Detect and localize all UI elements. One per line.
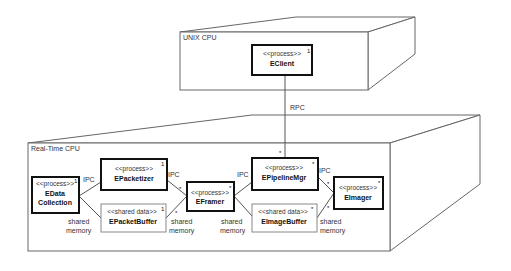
eimager-box xyxy=(334,177,383,209)
eframer-stereotype: <<process>> xyxy=(191,189,229,197)
ipc-label: IPC xyxy=(319,167,331,174)
epacketizer-stereotype: <<process>> xyxy=(115,165,153,173)
epipelinemgr-stereotype: <<process>> xyxy=(265,164,303,172)
edata-name-line1: EData xyxy=(45,190,65,197)
shared-memory-label-line2: memory xyxy=(169,227,195,235)
component-eimagebuffer[interactable]: <<shared data>> EImageBuffer * xyxy=(252,204,317,232)
component-epacketbuffer[interactable]: <<shared data>> EPacketBuffer 1 xyxy=(101,204,166,232)
shared-memory-label-line2: memory xyxy=(320,227,346,235)
eclient-stereotype: <<process>> xyxy=(263,50,301,58)
eframer-box xyxy=(187,182,234,211)
eimagebuffer-name: EImageBuffer xyxy=(261,218,307,226)
shared-memory-label-line2: memory xyxy=(220,227,246,235)
realtime-cpu-label: Real-Time CPU xyxy=(31,145,80,152)
component-eclient[interactable]: <<process>> EClient 1 xyxy=(252,45,312,75)
unix-cpu-label: UNIX CPU xyxy=(183,34,216,41)
epacketbuffer-stereotype: <<shared data>> xyxy=(107,208,157,215)
eimager-stereotype: <<process>> xyxy=(339,184,377,192)
eclient-name: EClient xyxy=(270,60,295,67)
rpc-label: RPC xyxy=(290,104,305,111)
eimager-name: EImager xyxy=(344,194,372,202)
edata-name-line2: Collection xyxy=(38,199,72,206)
shared-memory-label-line1: shared xyxy=(221,218,243,225)
component-epacketizer[interactable]: <<process>> EPacketizer 1 xyxy=(101,159,167,190)
component-eframer[interactable]: <<process>> EFramer * xyxy=(187,182,234,211)
shared-memory-label-line1: shared xyxy=(68,218,90,225)
edata-stereotype: <<process>> xyxy=(36,180,74,188)
deployment-diagram: UNIX CPU Real-Time CPU RPC * IPC shared … xyxy=(0,0,511,271)
component-edata-collection[interactable]: <<process>> EData Collection 1 xyxy=(32,177,79,213)
eframer-name: EFramer xyxy=(196,198,225,205)
eimagebuffer-stereotype: <<shared data>> xyxy=(258,208,308,215)
epipelinemgr-name: EPipelineMgr xyxy=(262,174,307,182)
component-epipelinemgr[interactable]: <<process>> EPipelineMgr * xyxy=(252,158,318,190)
ipc-label: IPC xyxy=(237,171,249,178)
component-eimager[interactable]: <<process>> EImager * xyxy=(334,177,383,209)
shared-memory-label-line1: shared xyxy=(171,218,193,225)
shared-memory-label-line1: shared xyxy=(320,218,342,225)
epacketizer-name: EPacketizer xyxy=(114,175,154,182)
ipc-label: IPC xyxy=(83,176,95,183)
epacketbuffer-name: EPacketBuffer xyxy=(109,218,157,225)
shared-memory-label-line2: memory xyxy=(66,227,92,235)
ipc-label: IPC xyxy=(168,171,180,178)
